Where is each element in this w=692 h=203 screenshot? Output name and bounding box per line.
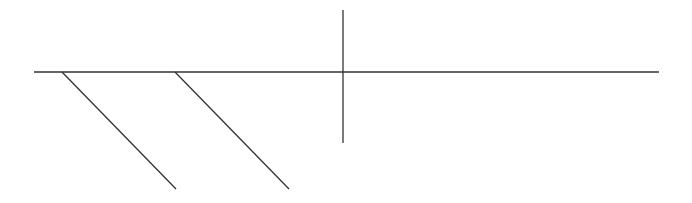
diagonal-branch-2: [175, 72, 289, 189]
diagonal-branch-1: [62, 72, 176, 189]
diagram-svg: [0, 0, 692, 203]
line-diagram: [0, 0, 692, 203]
